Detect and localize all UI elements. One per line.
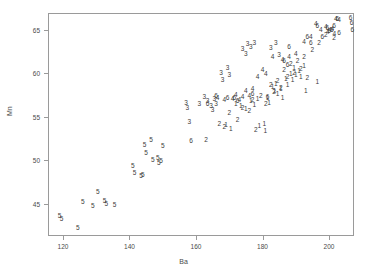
y-axis-tick-label: 60 — [24, 70, 40, 77]
plot-frame — [48, 13, 354, 236]
x-axis-label: Ba — [0, 258, 367, 265]
x-axis-tick-label: 200 — [324, 243, 335, 250]
x-axis-tick — [329, 236, 330, 240]
y-axis-tick-label: 55 — [24, 113, 40, 120]
y-axis-tick-label: 50 — [24, 157, 40, 164]
x-axis-tick-label: 180 — [257, 243, 268, 250]
x-axis-tick-label: 120 — [58, 243, 69, 250]
x-axis-tick-label: 160 — [191, 243, 202, 250]
y-axis-tick — [44, 30, 48, 31]
y-axis-tick-label: 45 — [24, 200, 40, 207]
x-axis-tick-label: 140 — [124, 243, 135, 250]
x-axis-tick — [129, 236, 130, 240]
y-axis-tick — [44, 160, 48, 161]
scatter-plot-figure: 1111111111111111111111111111112222222222… — [0, 0, 367, 277]
y-axis-tick — [44, 204, 48, 205]
y-axis-tick — [44, 73, 48, 74]
x-axis-tick — [196, 236, 197, 240]
y-axis-tick-label: 65 — [24, 26, 40, 33]
x-axis-tick — [263, 236, 264, 240]
y-axis-tick — [44, 117, 48, 118]
y-axis-label: Mn — [6, 106, 13, 116]
x-axis-tick — [63, 236, 64, 240]
